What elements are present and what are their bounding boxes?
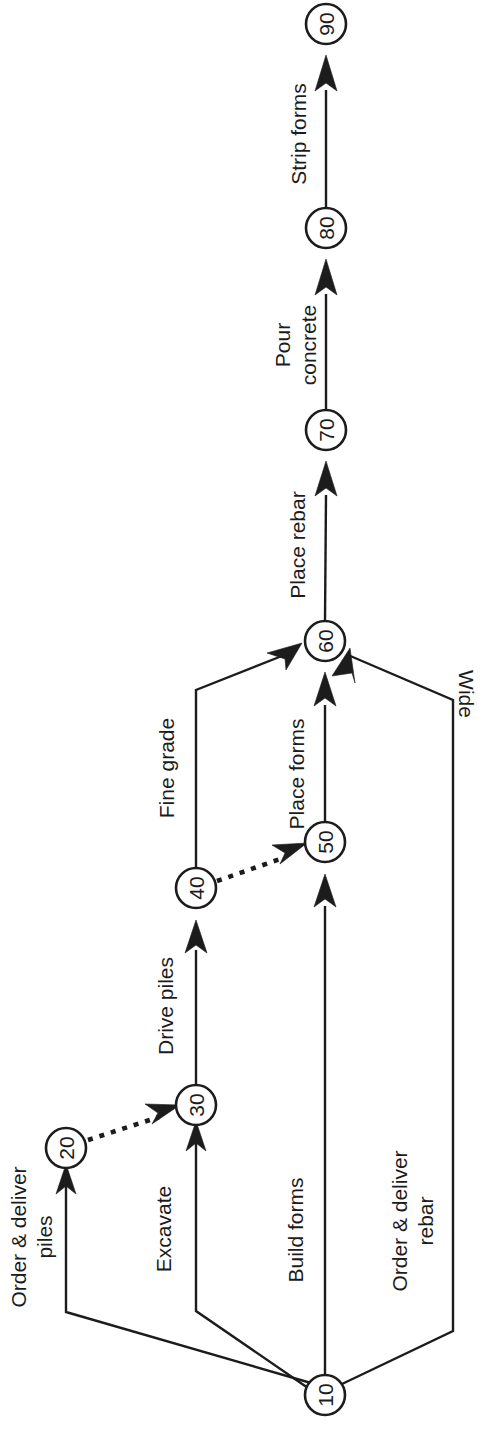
arrow-head-icon xyxy=(145,1104,180,1124)
edge-place-forms[interactable] xyxy=(314,672,336,822)
svg-text:10: 10 xyxy=(314,1383,337,1406)
arrow-head-icon xyxy=(185,920,207,953)
edge-path xyxy=(325,495,326,621)
network-diagram-svg: Order & deliver piles Excavate Build for… xyxy=(0,0,486,1447)
arrow-head-icon xyxy=(314,672,336,706)
label-wide: Wide xyxy=(455,670,478,718)
edge-build-forms[interactable] xyxy=(314,874,336,1375)
arrow-head-icon xyxy=(315,259,337,295)
edge-path xyxy=(217,858,283,881)
svg-text:Build forms: Build forms xyxy=(284,1177,307,1282)
label-drive-piles: Drive piles xyxy=(154,957,177,1055)
svg-text:Drive piles: Drive piles xyxy=(154,957,177,1055)
edge-label-layer: Order & deliver piles Excavate Build for… xyxy=(7,83,478,1307)
svg-text:Strip forms: Strip forms xyxy=(287,83,310,185)
edge-path xyxy=(196,650,297,868)
edge-dummy-20-30[interactable] xyxy=(88,1104,180,1140)
node-90[interactable]: 90 xyxy=(306,4,346,44)
arrow-head-icon xyxy=(315,55,337,91)
svg-text:70: 70 xyxy=(315,418,338,441)
svg-text:concrete: concrete xyxy=(297,305,320,386)
node-70[interactable]: 70 xyxy=(306,410,346,450)
network-diagram-canvas: Order & deliver piles Excavate Build for… xyxy=(0,0,486,1447)
svg-text:Excavate: Excavate xyxy=(152,1186,175,1272)
node-80[interactable]: 80 xyxy=(306,208,346,248)
svg-text:Order & deliver: Order & deliver xyxy=(388,1150,411,1291)
edge-path xyxy=(66,1180,311,1383)
edge-place-rebar[interactable] xyxy=(315,461,337,621)
node-10[interactable]: 10 xyxy=(305,1375,345,1415)
label-strip-forms: Strip forms xyxy=(287,83,310,185)
svg-text:80: 80 xyxy=(315,216,338,239)
svg-text:60: 60 xyxy=(314,629,337,652)
svg-text:50: 50 xyxy=(314,830,337,853)
svg-text:20: 20 xyxy=(55,1136,78,1159)
node-20[interactable]: 20 xyxy=(46,1128,86,1168)
arrow-head-icon xyxy=(314,874,336,907)
svg-text:rebar: rebar xyxy=(414,1196,437,1245)
label-build-forms: Build forms xyxy=(284,1177,307,1282)
edge-drive-piles[interactable] xyxy=(185,920,207,1085)
edge-strip-forms[interactable] xyxy=(315,55,337,208)
svg-text:Wide: Wide xyxy=(455,670,478,718)
svg-text:piles: piles xyxy=(33,1215,56,1258)
svg-text:Place rebar: Place rebar xyxy=(286,491,309,598)
label-place-forms: Place forms xyxy=(285,719,308,830)
node-30[interactable]: 30 xyxy=(176,1085,216,1125)
svg-text:40: 40 xyxy=(185,876,208,899)
label-order-deliver-rebar: Order & deliver rebar xyxy=(388,1150,437,1291)
label-place-rebar: Place rebar xyxy=(286,491,309,598)
svg-text:30: 30 xyxy=(185,1093,208,1116)
label-fine-grade: Fine grade xyxy=(155,718,178,818)
label-pour-concrete: Pour concrete xyxy=(271,305,320,386)
label-excavate: Excavate xyxy=(152,1186,175,1272)
svg-text:90: 90 xyxy=(315,12,338,35)
svg-text:Fine grade: Fine grade xyxy=(155,718,178,818)
edge-dummy-40-50[interactable] xyxy=(217,843,307,881)
svg-text:Pour: Pour xyxy=(271,323,294,367)
edge-path xyxy=(88,1117,159,1140)
node-40[interactable]: 40 xyxy=(176,868,216,908)
node-50[interactable]: 50 xyxy=(305,822,345,862)
arrow-head-icon xyxy=(267,643,302,670)
arrow-head-icon xyxy=(315,461,337,496)
edge-order-deliver-piles[interactable] xyxy=(56,1164,311,1383)
svg-text:Order & deliver: Order & deliver xyxy=(7,1166,30,1307)
node-60[interactable]: 60 xyxy=(305,621,345,661)
svg-text:Place forms: Place forms xyxy=(285,719,308,830)
label-order-deliver-piles: Order & deliver piles xyxy=(7,1166,56,1307)
